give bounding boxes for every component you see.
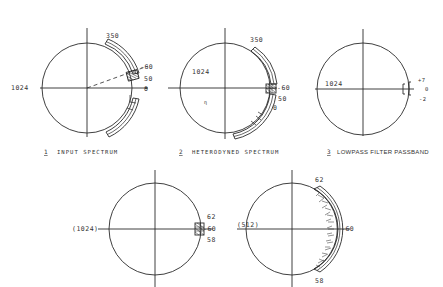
label-left: (512)	[237, 221, 259, 229]
label-left: (1024)	[72, 225, 98, 233]
passband-bracket-right	[409, 82, 411, 95]
label-marker-high: -60	[277, 84, 290, 92]
label-lower: -2	[419, 96, 427, 102]
panel-caption: HETERODYNED SPECTRUM	[192, 149, 279, 155]
label-left: 1024	[325, 80, 343, 88]
label-upper: 62	[315, 176, 324, 184]
panel-input-spectrum: 1024 350 -60 50 0 1 INPUT SPECTRUM	[11, 28, 153, 155]
panel-number: 1	[44, 148, 48, 155]
label-left: 1024	[11, 84, 29, 92]
label-upper: 62	[207, 213, 216, 221]
label-marker-low: 0	[144, 85, 148, 93]
panel-expanded-band-512: (512) 62 -60 58	[237, 170, 354, 287]
spectrum-band-lower	[233, 94, 276, 139]
label-marker-mid: 50	[278, 95, 287, 103]
panel-narrowband-1024: (1024) 62 -60 58	[72, 170, 216, 287]
label-lower: 58	[315, 277, 324, 285]
label-left: 1024	[192, 68, 210, 76]
label-center: 0	[425, 86, 429, 92]
panel-caption: INPUT SPECTRUM	[57, 149, 118, 155]
panel-heterodyned-spectrum: 1024 350 -60 50 0 η 2 HETERODYNED SPECTR…	[168, 28, 290, 155]
panel-number: 3	[327, 148, 331, 155]
label-top-band: 350	[106, 32, 119, 40]
label-center: -60	[203, 225, 216, 233]
label-marker-mid: 50	[144, 75, 153, 83]
panel-number: 2	[179, 148, 183, 155]
label-marker-high: -60	[140, 63, 153, 71]
label-lower: 58	[207, 236, 216, 244]
panel-caption: LOWPASS FILTER PASSBAND	[337, 149, 429, 155]
label-marker-low: 0	[273, 104, 277, 112]
label-top-band: 350	[250, 36, 263, 44]
spectrum-band-lower	[106, 98, 139, 137]
label-upper: +7	[418, 77, 426, 83]
svg-text:η: η	[204, 99, 208, 106]
panel-lowpass-filter-passband: 1024 +7 0 -2 3 LOWPASS FILTER PASSBAND	[315, 29, 429, 155]
label-center: -60	[341, 225, 354, 233]
spectrum-diagram-figure: 1024 350 -60 50 0 1 INPUT SPECTRUM 1024 …	[0, 0, 443, 287]
